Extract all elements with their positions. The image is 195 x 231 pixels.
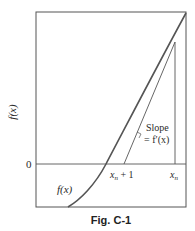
newton-method-diagram: f(x) 0 f(x) Slope = f′(x) xn + 1 xn Fig.… xyxy=(0,0,195,231)
x-n-label: xn xyxy=(169,169,178,182)
y-axis-label: f(x) xyxy=(6,104,19,120)
slope-label-line2: = f′(x) xyxy=(144,134,169,146)
zero-label: 0 xyxy=(26,158,32,170)
slope-angle-marker xyxy=(137,132,141,138)
curve-label: f(x) xyxy=(57,183,73,196)
x-next-label: xn + 1 xyxy=(109,169,134,182)
tangent-line xyxy=(124,42,175,164)
slope-label-line1: Slope xyxy=(146,122,169,133)
figure-caption: Fig. C-1 xyxy=(91,214,131,226)
